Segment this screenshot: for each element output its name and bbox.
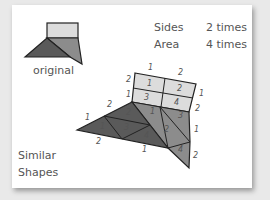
edge-label: 1 [85,113,90,122]
original-label: original [33,64,74,77]
edge-label: 1 [126,90,131,99]
original-shape [25,23,82,64]
edge-label: 2 [178,68,183,77]
title-line-1: Similar [18,149,57,162]
sides-value: 2 times [206,21,247,34]
original-rectangle [47,23,78,38]
rect-piece-4: 4 [174,98,179,107]
area-value: 4 times [206,38,247,51]
edge-label: 1 [148,63,153,72]
rect-piece-3: 3 [144,93,149,102]
edge-label: 1 [199,89,204,98]
gray-piece-2: 2 [164,125,169,134]
edge-label: 2 [193,151,198,160]
gray-piece-3: 3 [178,111,183,120]
dark-piece-3: 3 [124,123,129,132]
dark-piece-2: 2 [126,108,131,117]
edge-label: 1 [194,125,199,134]
title-line-2: Shapes [18,166,58,179]
rect-piece-2: 2 [177,84,182,93]
area-label: Area [154,38,179,51]
rect-piece-1: 1 [147,79,152,88]
gray-piece-1: 1 [150,107,155,116]
edge-label: 1 [142,145,147,154]
sides-label: Sides [154,21,184,34]
dark-piece-1: 1 [100,122,105,131]
edge-label: 2 [107,100,112,109]
edge-label: 2 [195,104,200,113]
dark-piece-4: 4 [144,131,149,140]
edge-label: 2 [126,75,131,84]
edge-label: 2 [96,137,101,146]
gray-piece-4: 4 [178,145,183,154]
similar-shapes-diagram: original Sides 2 times Area 4 times 1 2 … [0,0,270,200]
